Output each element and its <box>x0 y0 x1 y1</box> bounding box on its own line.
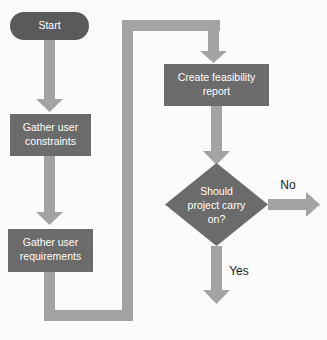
node-decision[interactable]: Should project carry on? <box>165 163 268 246</box>
arrowhead-constraints-requirements <box>36 212 63 225</box>
edge-constraints-to-requirements <box>36 156 63 225</box>
arrowhead-into-report <box>200 51 227 63</box>
edge-decision-no <box>268 192 320 217</box>
node-create-report-shape[interactable] <box>164 64 269 106</box>
loop-segment-down-right <box>208 20 219 53</box>
arrow-shaft-constraints-requirements <box>44 156 55 214</box>
node-gather-requirements-shape[interactable] <box>8 229 93 272</box>
flowchart-svg: Start Gather user constraints Gather use… <box>0 0 327 340</box>
node-gather-constraints-shape[interactable] <box>10 114 91 156</box>
arrowhead-decision-yes <box>203 290 230 304</box>
arrow-shaft-report-decision <box>211 106 222 153</box>
arrowhead-report-decision <box>203 151 230 165</box>
arrowhead-decision-no <box>306 192 320 217</box>
edge-decision-yes <box>203 246 230 304</box>
arrow-shaft-decision-yes <box>211 246 222 293</box>
loop-segment-top <box>122 20 220 31</box>
node-start-shape[interactable] <box>10 12 89 40</box>
arrow-shaft-decision-no <box>268 199 308 210</box>
flowchart-canvas: Start Gather user constraints Gather use… <box>0 0 327 340</box>
edge-label-no: No <box>280 178 296 192</box>
node-start[interactable]: Start <box>10 12 89 40</box>
arrow-shaft-start-constraints <box>44 39 55 101</box>
edge-report-to-decision <box>203 106 230 165</box>
loop-segment-up <box>122 20 133 321</box>
loop-segment-bottom <box>44 310 133 321</box>
edge-label-yes: Yes <box>229 264 249 278</box>
node-gather-requirements[interactable]: Gather user requirements <box>8 229 93 272</box>
edge-start-to-constraints <box>36 39 63 112</box>
node-create-report[interactable]: Create feasibility report <box>164 64 269 106</box>
node-gather-constraints[interactable]: Gather user constraints <box>10 114 91 156</box>
node-decision-shape[interactable] <box>165 163 268 246</box>
arrowhead-start-constraints <box>36 99 63 112</box>
